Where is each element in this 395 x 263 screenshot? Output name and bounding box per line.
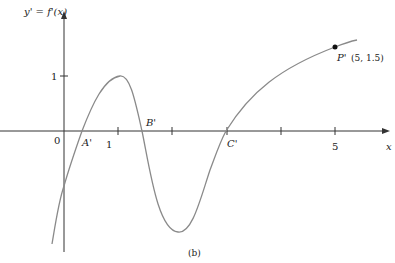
label-a-prime: A' [81, 137, 92, 148]
label-p-prime: P' [336, 52, 346, 63]
figure-caption: (b) [188, 248, 201, 258]
origin-label: 0 [54, 135, 60, 146]
y-tick-label-1: 1 [51, 71, 57, 82]
derivative-curve [52, 40, 357, 244]
x-tick-label-1: 1 [106, 139, 112, 150]
x-axis-arrow-icon [382, 128, 390, 134]
label-p-coords: (5, 1.5) [351, 53, 384, 63]
y-axis-label: y' = f'(x) [23, 6, 67, 17]
label-c-prime: C' [227, 138, 237, 149]
x-axis-label: x [386, 141, 392, 152]
chart: y' = f'(x) x 0 1 1 5 A' B' C' P' (5, 1.5… [0, 0, 395, 263]
point-p-prime [333, 45, 338, 50]
label-b-prime: B' [145, 117, 156, 128]
x-tick-label-5: 5 [332, 141, 338, 152]
